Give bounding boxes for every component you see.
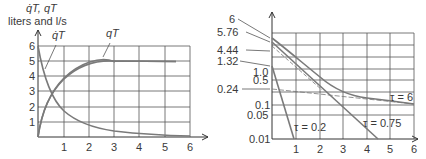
left-xtick-2: 2	[86, 141, 92, 153]
right-xtick-2: 2	[317, 143, 323, 155]
qdot-callout	[45, 45, 56, 69]
left-xtick-5: 5	[162, 141, 168, 153]
left-ytick-5: 5	[29, 55, 35, 67]
right-xtick-3: 3	[340, 143, 346, 155]
right-chart: 6 5.76 4.44 1.32 0.24 1.0 0.5 0.1 0.05 0…	[217, 12, 418, 155]
q-callout	[103, 43, 110, 57]
left-axes	[35, 30, 208, 140]
left-ytick-4: 4	[29, 70, 35, 82]
left-ytick-3: 3	[29, 85, 35, 97]
callout-5-76: 5.76	[217, 26, 238, 38]
tau-075-dashed	[272, 46, 322, 90]
left-chart: 1 2 3 4 5 6 1 2 3 4 5 6 q̇T, qT liters a…	[8, 2, 208, 153]
left-ytick-2: 2	[29, 101, 35, 113]
tau-6-label: τ = 6	[390, 91, 413, 103]
left-grid	[38, 46, 190, 137]
left-xtick-6: 6	[187, 141, 193, 153]
left-ytick-1: 1	[29, 116, 35, 128]
qdot-label: q̇T	[52, 29, 66, 41]
right-xtick-5: 5	[387, 143, 393, 155]
left-xtick-3: 3	[111, 141, 117, 153]
q-label: qT	[106, 27, 120, 39]
figure: 1 2 3 4 5 6 1 2 3 4 5 6 q̇T, qT liters a…	[0, 0, 426, 159]
right-xtick-4: 4	[364, 143, 370, 155]
q-curve	[38, 60, 176, 137]
tau-02-curve	[272, 66, 294, 139]
right-xtick-1: 1	[293, 143, 299, 155]
left-ylabel-units: liters and l/s	[8, 15, 67, 27]
left-ylabel-symbols: q̇T, qT	[26, 2, 58, 14]
callout-0-24: 0.24	[217, 83, 238, 95]
tau-075-label: τ = 0.75	[363, 117, 401, 129]
left-ytick-6: 6	[29, 40, 35, 52]
callout-1-32: 1.32	[217, 55, 238, 67]
tau-02-label: τ = 0.2	[294, 121, 326, 133]
left-xtick-1: 1	[61, 141, 67, 153]
right-ytick-0-01: 0.01	[249, 133, 270, 145]
right-ytick-0-05: 0.05	[247, 109, 268, 121]
callout-6: 6	[229, 13, 235, 25]
right-xtick-6: 6	[411, 143, 417, 155]
right-ytick-0-5: 0.5	[253, 74, 268, 86]
left-xtick-4: 4	[136, 141, 142, 153]
